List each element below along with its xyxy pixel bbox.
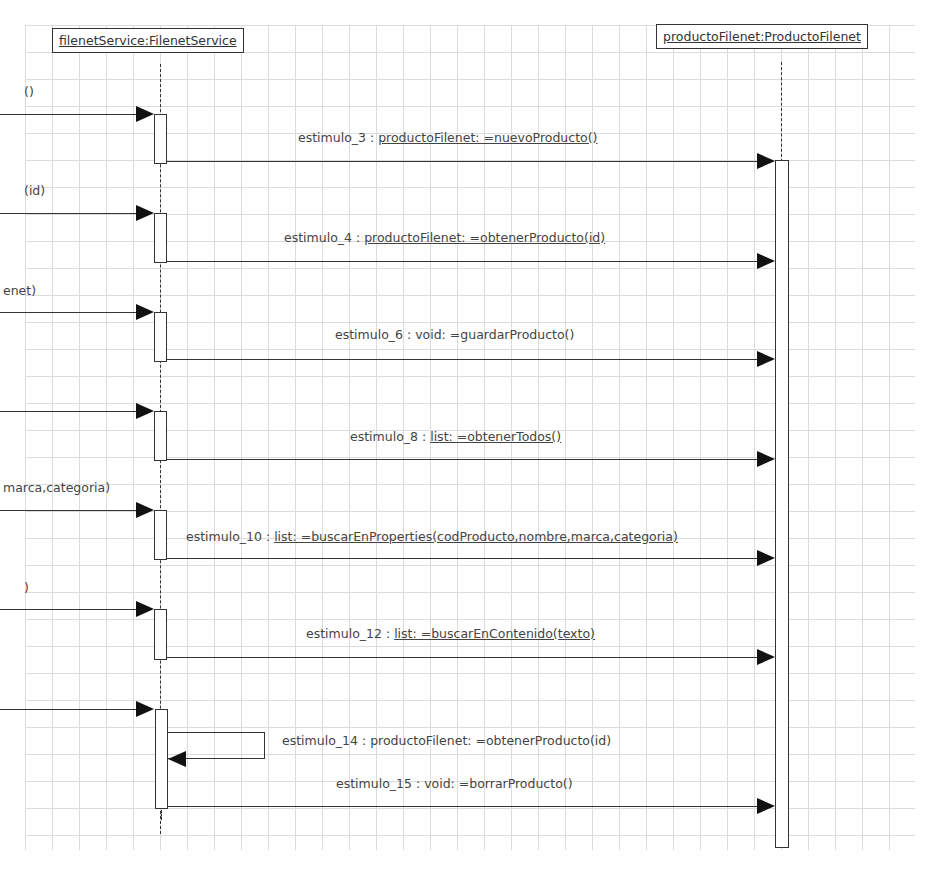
arrowhead-icon	[757, 798, 775, 814]
lifeline-line-producto-filenet	[781, 62, 782, 162]
message-label[interactable]: estimulo_12 : list: =buscarEnContenido(t…	[306, 626, 595, 641]
message-signature: productoFilenet: =obtenerProducto(id)	[364, 230, 605, 245]
message-name: estimulo_4 :	[284, 230, 364, 245]
incoming-label: )	[24, 580, 29, 595]
arrowhead-icon	[168, 751, 186, 767]
incoming-message-line[interactable]	[0, 213, 140, 214]
arrowhead-icon	[757, 153, 775, 169]
arrowhead-icon	[757, 351, 775, 367]
message-label[interactable]: estimulo_14 : productoFilenet: =obtenerP…	[282, 733, 611, 748]
arrowhead-icon	[136, 701, 154, 717]
incoming-message-line[interactable]	[0, 510, 140, 511]
arrowhead-icon	[757, 550, 775, 566]
message-name: estimulo_10 :	[186, 529, 274, 544]
message-label[interactable]: estimulo_8 : list: =obtenerTodos()	[350, 429, 561, 444]
incoming-message-line[interactable]	[0, 609, 140, 610]
arrowhead-icon	[757, 253, 775, 269]
arrowhead-icon	[136, 205, 154, 221]
message-label[interactable]: estimulo_6 : void: =guardarProducto()	[335, 327, 574, 342]
incoming-label: (id)	[24, 183, 45, 198]
message-signature: productoFilenet: =obtenerProducto(id)	[370, 733, 611, 748]
lifeline-producto-filenet[interactable]: productoFilenet:ProductoFilenet	[656, 24, 868, 49]
message-line[interactable]	[167, 558, 759, 559]
lifeline-label: filenetService:FilenetService	[59, 33, 237, 48]
arrowhead-icon	[757, 649, 775, 665]
message-name: estimulo_6 :	[335, 327, 415, 342]
activation-filenet-service[interactable]	[155, 709, 168, 809]
activation-filenet-service[interactable]	[154, 609, 167, 660]
incoming-message-line[interactable]	[0, 312, 140, 313]
message-name: estimulo_14 :	[282, 733, 370, 748]
arrowhead-icon	[136, 502, 154, 518]
message-line[interactable]	[167, 657, 759, 658]
arrowhead-icon	[136, 403, 154, 419]
incoming-label: ()	[24, 84, 34, 99]
message-signature: void: =guardarProducto()	[415, 327, 574, 342]
activation-filenet-service[interactable]	[154, 114, 167, 164]
incoming-message-line[interactable]	[0, 709, 140, 710]
lifeline-label: productoFilenet:ProductoFilenet	[663, 29, 861, 44]
message-label[interactable]: estimulo_15 : void: =borrarProducto()	[336, 776, 573, 791]
activation-filenet-service[interactable]	[154, 312, 167, 362]
arrowhead-icon	[136, 106, 154, 122]
incoming-label: enet)	[3, 283, 36, 298]
message-signature: void: =borrarProducto()	[424, 776, 572, 791]
message-label[interactable]: estimulo_10 : list: =buscarEnProperties(…	[186, 529, 678, 544]
incoming-message-line[interactable]	[0, 411, 140, 412]
message-line[interactable]	[168, 806, 759, 807]
activation-filenet-service[interactable]	[154, 411, 167, 461]
message-label[interactable]: estimulo_4 : productoFilenet: =obtenerPr…	[284, 230, 605, 245]
message-line[interactable]	[167, 359, 759, 360]
incoming-label: marca,categoria)	[3, 480, 110, 495]
activation-producto-filenet[interactable]	[775, 160, 789, 848]
message-signature: list: =buscarEnProperties(codProducto,no…	[274, 529, 678, 544]
lifeline-filenet-service[interactable]: filenetService:FilenetService	[52, 28, 244, 53]
incoming-message-line[interactable]	[0, 114, 140, 115]
message-signature: list: =obtenerTodos()	[430, 429, 561, 444]
message-signature: productoFilenet: =nuevoProducto()	[378, 130, 597, 145]
activation-filenet-service[interactable]	[154, 213, 167, 263]
message-name: estimulo_15 :	[336, 776, 424, 791]
message-name: estimulo_8 :	[350, 429, 430, 444]
message-name: estimulo_3 :	[298, 130, 378, 145]
message-label[interactable]: estimulo_3 : productoFilenet: =nuevoProd…	[298, 130, 597, 145]
message-line[interactable]	[167, 261, 759, 262]
arrowhead-icon	[136, 304, 154, 320]
message-name: estimulo_12 :	[306, 626, 394, 641]
arrowhead-icon	[757, 451, 775, 467]
activation-filenet-service[interactable]	[154, 510, 167, 560]
arrowhead-icon	[136, 601, 154, 617]
message-signature: list: =buscarEnContenido(texto)	[394, 626, 595, 641]
message-line[interactable]	[167, 161, 759, 162]
message-line[interactable]	[167, 459, 759, 460]
lifeline-line-tail	[161, 810, 162, 820]
